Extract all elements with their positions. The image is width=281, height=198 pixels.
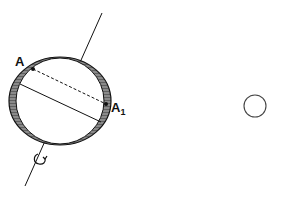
label-a: A (15, 54, 25, 69)
point-a-dot (31, 67, 35, 71)
small-circle (244, 95, 266, 117)
diagram-canvas: A A1 (0, 0, 281, 198)
label-a1-sub: 1 (120, 107, 125, 117)
point-a1-dot (104, 102, 108, 106)
inner-sphere (16, 58, 104, 144)
label-a1: A1 (111, 100, 125, 117)
rotation-arrow-icon (34, 154, 47, 164)
